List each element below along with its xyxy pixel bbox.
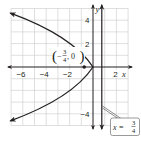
directrix-callout: x = 3 4 bbox=[103, 106, 140, 136]
parabola-graph: −6 −4 −2 2 x 4 2 −4 y ( − 3 4 , 0 ) x = … bbox=[0, 0, 141, 142]
y-tick-4: 4 bbox=[85, 16, 90, 25]
y-axis-label: y bbox=[95, 4, 100, 14]
x-tick-2: 2 bbox=[113, 70, 118, 79]
y-tick-2: 2 bbox=[85, 40, 90, 49]
focus-label-close-paren: ) bbox=[80, 48, 85, 65]
directrix-label-numerator: 3 bbox=[132, 119, 135, 126]
focus-label-rest: , 0 bbox=[67, 52, 75, 61]
x-axis-label: x bbox=[121, 69, 126, 79]
y-tick-neg4: −4 bbox=[80, 110, 90, 119]
focus-label-numerator: 3 bbox=[63, 48, 66, 55]
focus-label-sign: − bbox=[57, 52, 62, 61]
focus-label: ( − 3 4 , 0 ) bbox=[52, 47, 85, 65]
x-tick-neg4: −4 bbox=[40, 70, 50, 79]
x-tick-neg6: −6 bbox=[16, 70, 26, 79]
directrix-label-eq: = bbox=[117, 123, 126, 132]
x-tick-neg2: −2 bbox=[63, 70, 73, 79]
x-tick-labels: −6 −4 −2 2 bbox=[16, 70, 119, 79]
focus-point bbox=[82, 65, 86, 69]
